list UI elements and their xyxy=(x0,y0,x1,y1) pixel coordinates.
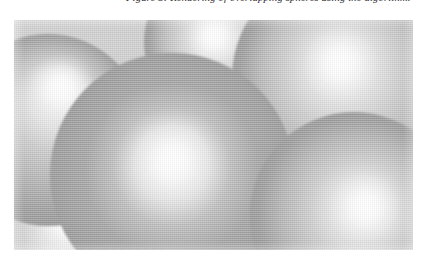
figure-caption-text: Figure 5: Rendering of overlapping spher… xyxy=(126,0,411,3)
figure-caption-strip: Figure 5: Rendering of overlapping spher… xyxy=(0,0,427,14)
figure-sphere-render xyxy=(14,20,413,250)
sphere-render-canvas xyxy=(14,20,413,250)
